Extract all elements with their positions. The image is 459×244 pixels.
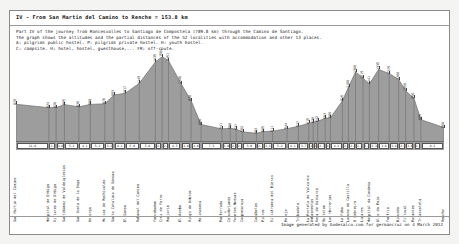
km-marker: 3.3 <box>370 143 378 148</box>
km-marker: 2.3 <box>364 143 369 148</box>
intro-text: Part IV of the journey from Roncesvalles… <box>16 29 446 51</box>
altitude-tick <box>105 101 106 104</box>
km-marker: 2.3 <box>237 143 242 148</box>
altitude-tick <box>389 71 390 74</box>
km-marker: 3.7 <box>299 143 308 148</box>
km-marker: 3.3 <box>105 143 113 148</box>
altitude-tick <box>125 90 126 93</box>
altitude-tick <box>222 126 223 129</box>
altitude-tick <box>287 126 288 129</box>
profile-svg <box>16 57 444 147</box>
altitude-tick <box>139 80 140 83</box>
place-name: O Cebreiro <box>353 201 357 222</box>
footer-credit: Image generated by Godesalco.com for ger… <box>281 222 443 227</box>
km-marker: 1.9 <box>326 143 330 148</box>
altitude-tick <box>236 126 237 129</box>
place-name: El Ganso <box>123 205 127 222</box>
place-name: Cruz de Ferro <box>159 195 163 222</box>
place-name: Filloval <box>403 205 407 222</box>
altitude-tick <box>49 105 50 108</box>
altitude-tick <box>399 77 400 80</box>
km-marker: 5.2 <box>65 143 78 148</box>
km-marker: 2.2 <box>343 143 348 148</box>
chart-frame: IV - From San Martin del Camino to Rench… <box>9 10 450 235</box>
km-marker: 4.3 <box>331 143 342 148</box>
place-name: Trabadelo <box>296 203 300 222</box>
km-marker: 4.1 <box>79 143 89 148</box>
km-marker: 3.0 <box>223 143 230 148</box>
altitude-tick <box>114 92 115 95</box>
altitude-tick <box>16 101 17 104</box>
place-name: Biduedo <box>396 207 400 222</box>
altitude-tick <box>181 81 182 84</box>
km-marker: 3.8 <box>379 143 388 148</box>
km-marker: 2.5 <box>399 143 405 148</box>
km-marker: 2.6 <box>49 143 55 148</box>
page-root: IV - From San Martin del Camino to Rench… <box>0 0 459 244</box>
km-marker: 5.0 <box>126 143 139 148</box>
km-marker: 2.7 <box>356 143 362 148</box>
km-marker: 3.0 <box>406 143 413 148</box>
km-marker: 4.1 <box>288 143 298 148</box>
km-marker: 11.8 <box>17 143 49 148</box>
km-marker: 2.5 <box>257 143 263 148</box>
place-name: Ruitelan <box>322 205 326 222</box>
place-name: Ambasmestas <box>310 199 314 222</box>
altitude-tick <box>263 129 264 132</box>
altitude-tick <box>363 75 364 78</box>
altitude-tick <box>64 102 65 105</box>
altitude-tick <box>356 69 357 72</box>
profile-plot <box>16 57 444 147</box>
footer-divider <box>10 216 449 217</box>
altitude-tick <box>330 115 331 118</box>
km-marker: 2.1 <box>231 143 236 148</box>
place-name: El Acebo <box>178 205 182 222</box>
place-name: Santa Catalina de Somoza <box>111 171 115 222</box>
altitude-tick <box>406 88 407 91</box>
km-marker: 2.3 <box>163 143 168 148</box>
distance-marker-band: 11.82.63.05.24.15.23.34.15.05.82.42.34.5… <box>16 141 444 150</box>
elevation-profile-chart: 8708248268658368688769931017114914351504… <box>16 57 444 147</box>
altitude-tick <box>243 129 244 132</box>
place-name: Santibanez de Valdeiglesias <box>62 165 66 222</box>
altitude-tick <box>230 125 231 128</box>
km-marker: 3.3 <box>264 143 272 148</box>
km-marker: 4.1 <box>115 143 125 148</box>
km-marker: 4.5 <box>169 143 180 148</box>
place-name: Las Herrerias <box>328 195 332 222</box>
place-name: Manjarin <box>166 205 170 222</box>
km-marker: 2.4 <box>156 143 161 148</box>
altitude-tick <box>342 98 343 101</box>
place-name-labels: San Martin del CaminoHospital de OrbigoV… <box>16 150 444 222</box>
km-marker: 5.2 <box>91 143 104 148</box>
altitude-tick <box>421 117 422 120</box>
altitude-tick <box>325 115 326 118</box>
altitude-tick <box>273 128 274 131</box>
altitude-tick <box>79 104 80 107</box>
altitude-tick <box>256 130 257 133</box>
place-name: Fonfria <box>386 207 390 222</box>
km-marker: 3.0 <box>57 143 64 148</box>
altitude-tick <box>90 101 91 104</box>
place-name: Cacabelos <box>254 203 258 222</box>
place-name: Alto do Poio <box>376 197 380 222</box>
title-bar: IV - From San Martin del Camino to Rench… <box>10 11 449 26</box>
altitude-tick <box>369 81 370 84</box>
altitude-tick <box>191 98 192 101</box>
altitude-tick <box>309 120 310 123</box>
altitude-tick <box>444 125 445 128</box>
place-name: Linares <box>360 207 364 222</box>
place-name: Riego de Ambros <box>188 190 192 222</box>
place-name: Ponferrada <box>219 201 223 222</box>
place-name: La Faba <box>340 207 344 222</box>
km-marker: 1.6 <box>314 143 317 148</box>
km-marker: 5.8 <box>140 143 155 148</box>
km-marker: 3.4 <box>390 143 398 148</box>
page-title: IV - From San Martin del Camino to Rench… <box>16 14 188 20</box>
place-name: Fuentes Nuevas <box>233 192 237 222</box>
km-marker: 5.0 <box>243 143 256 148</box>
km-marker: 2.7 <box>318 143 324 148</box>
place-name: Molinaseca <box>198 201 202 222</box>
km-marker: 2.5 <box>349 143 355 148</box>
place-name: Pasantes <box>411 205 415 222</box>
